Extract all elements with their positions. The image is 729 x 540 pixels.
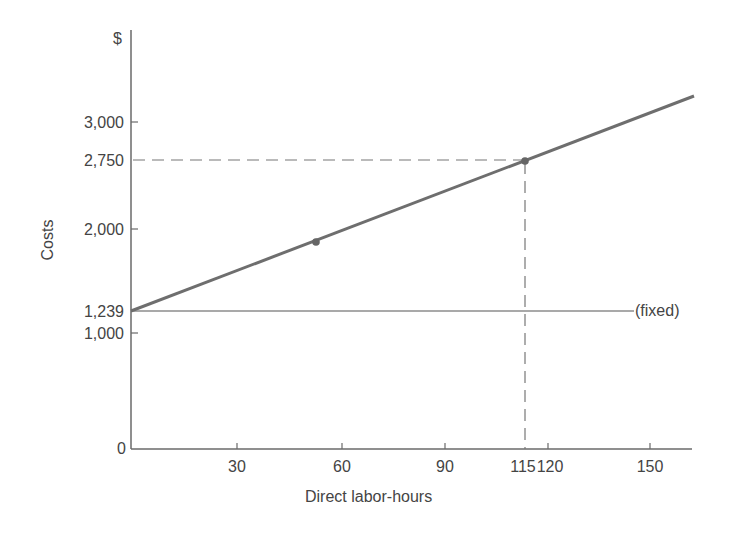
x-tick-label-60: 60 <box>322 459 362 475</box>
y-axis-title: Costs <box>40 218 56 262</box>
y-tick-label-0: 0 <box>66 441 126 457</box>
y-tick-label-1239: 1,239 <box>64 304 124 320</box>
x-tick-label-120: 120 <box>530 459 570 475</box>
cost-chart <box>0 0 729 540</box>
fixed-annotation: (fixed) <box>635 303 679 319</box>
x-tick-label-30: 30 <box>217 459 257 475</box>
y-ticks <box>131 122 138 333</box>
y-tick-label-3000: 3,000 <box>64 115 124 131</box>
x-ticks <box>237 443 650 449</box>
data-point-marker <box>521 157 529 165</box>
y-tick-label-1000: 1,000 <box>64 326 124 342</box>
x-tick-label-90: 90 <box>425 459 465 475</box>
data-point-marker <box>312 238 320 246</box>
y-tick-label-2000: 2,000 <box>64 222 124 238</box>
total-cost-line <box>131 96 694 311</box>
y-tick-label-2750: 2,750 <box>64 153 124 169</box>
x-tick-label-150: 150 <box>630 459 670 475</box>
y-unit-label: $ <box>113 31 122 47</box>
x-axis-title: Direct labor-hours <box>305 489 432 505</box>
